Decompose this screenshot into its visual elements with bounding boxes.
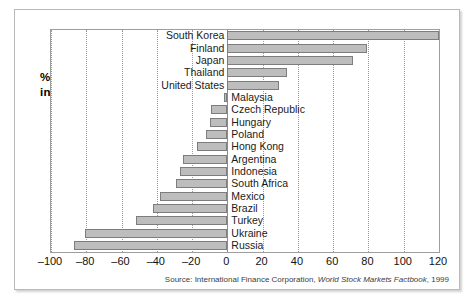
category-label: South Korea [166, 30, 224, 41]
category-label: Hungary [231, 117, 271, 128]
gridline [439, 30, 440, 252]
bar-row: United States [51, 80, 439, 91]
x-tick-label: 40 [291, 255, 303, 267]
x-tick-label: 80 [361, 255, 373, 267]
bar [180, 167, 228, 176]
category-label: South Africa [231, 178, 288, 189]
bar-row: Czech Republic [51, 105, 439, 116]
x-tick-label: –80 [76, 255, 94, 267]
bar-row: Indonesia [51, 166, 439, 177]
bar [206, 130, 227, 139]
category-label: Poland [231, 129, 264, 140]
bar-row: Poland [51, 129, 439, 140]
category-label: Malaysia [231, 92, 272, 103]
bar-row: Hong Kong [51, 142, 439, 153]
bar [227, 56, 352, 65]
source-title: World Stock Markets Factbook [318, 275, 427, 284]
bar-row: Thailand [51, 68, 439, 79]
bar-row: Argentina [51, 154, 439, 165]
x-tick-label: –40 [147, 255, 165, 267]
category-label: Brazil [231, 203, 257, 214]
bar-row: Brazil [51, 203, 439, 214]
plot-area: South KoreaFinlandJapanThailandUnited St… [50, 29, 440, 253]
bar-row: Mexico [51, 191, 439, 202]
x-tick-label: –20 [182, 255, 200, 267]
bar-row: Hungary [51, 117, 439, 128]
category-label: Ukraine [231, 228, 267, 239]
bar-row: Japan [51, 55, 439, 66]
bar [227, 68, 287, 77]
bar [227, 31, 439, 40]
bar [210, 118, 228, 127]
bar-row: South Korea [51, 31, 439, 42]
x-tick-label: 20 [256, 255, 268, 267]
category-label: United States [161, 80, 224, 91]
category-label: Mexico [231, 191, 264, 202]
category-label: Turkey [231, 215, 263, 226]
bar [153, 204, 227, 213]
category-label: Czech Republic [231, 104, 305, 115]
bar-row: Russia [51, 240, 439, 251]
category-label: Argentina [231, 154, 276, 165]
category-label: Finland [190, 43, 224, 54]
bar [227, 44, 366, 53]
category-label: Russia [231, 240, 263, 251]
bar-row: Malaysia [51, 92, 439, 103]
bar [74, 241, 227, 250]
bar [211, 105, 227, 114]
bar [136, 216, 228, 225]
bar-row: Finland [51, 43, 439, 54]
bar [197, 142, 227, 151]
bar [85, 229, 228, 238]
figure-frame: % change in $ terms South KoreaFinlandJa… [14, 9, 460, 290]
x-tick-label: 0 [223, 255, 229, 267]
category-label: Hong Kong [231, 141, 284, 152]
x-tick-label: –60 [111, 255, 129, 267]
x-tick-label: –100 [38, 255, 62, 267]
category-label: Indonesia [231, 166, 277, 177]
category-label: Thailand [184, 67, 224, 78]
source-suffix: , 1999 [427, 275, 449, 284]
bar-row: Ukraine [51, 228, 439, 239]
bar-row: Turkey [51, 216, 439, 227]
x-tick-label: 60 [326, 255, 338, 267]
category-label: Japan [196, 55, 225, 66]
bar [227, 81, 278, 90]
x-axis: –100–80–60–40–20020406080100120 [50, 255, 440, 273]
bar [224, 93, 228, 102]
source-prefix: Source: International Finance Corporatio… [165, 275, 318, 284]
bar [183, 155, 227, 164]
source-note: Source: International Finance Corporatio… [165, 275, 449, 284]
bar [176, 179, 227, 188]
bar [160, 192, 227, 201]
bar-row: South Africa [51, 179, 439, 190]
x-tick-label: 100 [394, 255, 412, 267]
x-tick-label: 120 [429, 255, 447, 267]
